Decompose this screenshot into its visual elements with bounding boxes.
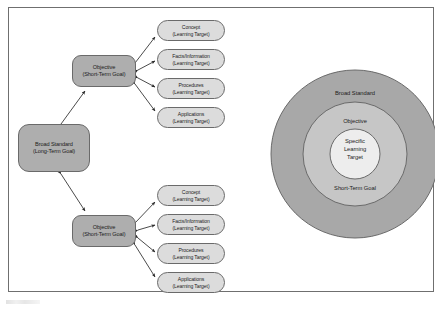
- node-learning-target-applications-bottom: Applications (Learning Target): [157, 272, 225, 293]
- circle-label-line-1: Specific: [324, 137, 386, 145]
- node-broad-standard-subtitle: (Long-Term Goal): [33, 148, 75, 155]
- learning-target-title: Applications: [178, 111, 204, 118]
- node-learning-target-applications-top: Applications (Learning Target): [157, 107, 225, 128]
- learning-target-subtitle: (Learning Target): [173, 60, 210, 67]
- learning-target-title: Concept: [182, 24, 200, 31]
- circle-label-specific-learning-target: Specific Learning Target: [324, 137, 386, 161]
- node-objective-bottom-title: Objective: [93, 224, 115, 231]
- circle-label-short-term-goal: Short-Term Goal: [303, 185, 407, 191]
- figure-frame: Broad Standard (Long-Term Goal) Objectiv…: [8, 7, 434, 292]
- learning-target-title: Facts/Information: [172, 53, 210, 60]
- node-objective-bottom: Objective (Short-Term Goal): [72, 215, 136, 247]
- node-learning-target-facts-bottom: Facts/Information (Learning Target): [157, 214, 225, 235]
- node-broad-standard: Broad Standard (Long-Term Goal): [18, 124, 90, 172]
- learning-target-subtitle: (Learning Target): [173, 283, 210, 290]
- node-learning-target-procedures-bottom: Procedures (Learning Target): [157, 243, 225, 264]
- node-objective-top: Objective (Short-Term Goal): [72, 55, 136, 87]
- circle-label-line-3: Target: [324, 153, 386, 161]
- circle-label-broad-standard: Broad Standard: [286, 90, 424, 96]
- learning-target-subtitle: (Learning Target): [173, 89, 210, 96]
- node-learning-target-concept-bottom: Concept (Learning Target): [157, 185, 225, 206]
- diagram-canvas: Broad Standard (Long-Term Goal) Objectiv…: [9, 8, 435, 293]
- node-broad-standard-title: Broad Standard: [35, 141, 73, 148]
- learning-target-title: Concept: [182, 189, 200, 196]
- node-learning-target-procedures-top: Procedures (Learning Target): [157, 78, 225, 99]
- learning-target-subtitle: (Learning Target): [173, 31, 210, 38]
- circle-label-objective: Objective: [303, 118, 407, 124]
- learning-target-subtitle: (Learning Target): [173, 196, 210, 203]
- learning-target-subtitle: (Learning Target): [173, 254, 210, 261]
- node-learning-target-concept-top: Concept (Learning Target): [157, 20, 225, 41]
- learning-target-title: Procedures: [178, 82, 203, 89]
- learning-target-subtitle: (Learning Target): [173, 225, 210, 232]
- learning-target-subtitle: (Learning Target): [173, 118, 210, 125]
- node-objective-bottom-subtitle: (Short-Term Goal): [82, 231, 125, 238]
- learning-target-title: Procedures: [178, 247, 203, 254]
- learning-target-title: Applications: [178, 276, 204, 283]
- scan-artifact: [6, 300, 40, 304]
- circle-label-line-2: Learning: [324, 145, 386, 153]
- node-objective-top-title: Objective: [93, 64, 115, 71]
- node-learning-target-facts-top: Facts/Information (Learning Target): [157, 49, 225, 70]
- node-objective-top-subtitle: (Short-Term Goal): [82, 71, 125, 78]
- learning-target-title: Facts/Information: [172, 218, 210, 225]
